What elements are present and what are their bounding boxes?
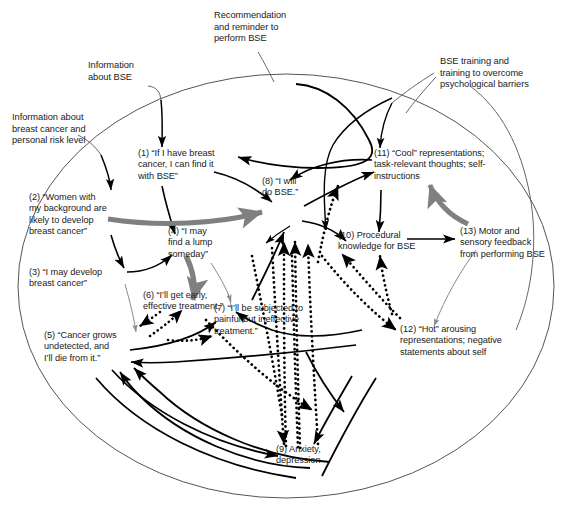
node-5-label: (5) “Cancer grows undetected, and I’ll d… (44, 330, 148, 364)
arrow-9-to-8-dotted-a (284, 242, 286, 446)
arrow-3-to-5-thingray (125, 284, 136, 332)
arrow-6-to-5-dotted (140, 312, 160, 326)
leader-recommendation (258, 52, 274, 82)
node-1-label: (1) “If I have breast cancer, I can find… (138, 148, 236, 182)
arrow-down-right-to-9 (306, 352, 344, 412)
node-12-label: (12) “Hot” arousing representations; neg… (400, 324, 528, 358)
node-10-label: (10) Procedural knowledge for BSE (338, 230, 444, 253)
arrow-recommendation-to-node1 (238, 84, 372, 168)
arrow-training-to-node11 (380, 103, 392, 148)
node-2-label: (2) “Women with my background are likely… (29, 192, 125, 238)
node-11-label: (11) “Cool” representations; task-releva… (374, 148, 510, 182)
diagram-canvas: Information about BSE Recommendation and… (0, 0, 568, 510)
external-label-recommendation-reminder: Recommendation and reminder to perform B… (214, 10, 320, 45)
arrow-11-to-10 (379, 190, 381, 232)
node-8-label: (8) “I will do BSE.” (262, 176, 324, 199)
leader-info-about-bse (148, 86, 161, 100)
external-label-bse-training: BSE training and training to overcome ps… (440, 56, 560, 91)
arrow-2-to-3 (111, 235, 124, 268)
external-label-information-about-bse: Information about BSE (88, 60, 178, 83)
arrow-10-to-12-dotted (322, 256, 396, 330)
arrow-5-to-6-dotted (150, 310, 182, 336)
arrow-7-to-9 (314, 376, 352, 444)
arrow-9-to-8-dotted-c (308, 244, 318, 444)
node-13-label: (13) Motor and sensory feedback from per… (460, 226, 564, 260)
arrow-4-to-8-thin (266, 226, 290, 243)
node-4-label: (4) “I may find a lump someday” (168, 226, 242, 260)
arrow-12-to-10-dotted-b (380, 256, 392, 314)
arrow-to-9-a (112, 370, 278, 456)
arrow-3-to-4 (127, 255, 172, 272)
arrow-12-to-5 (131, 345, 356, 363)
leader-bse-training-a (392, 73, 434, 103)
arrow-info-cancer-to-node2 (101, 155, 111, 190)
node-9-label: (9) Anxiety, depression (276, 444, 350, 467)
arrow-training-outer-right (470, 86, 534, 330)
arrow-2-to-8-gray (108, 212, 262, 223)
node-3-label: (3) “I may develop breast cancer” (29, 267, 125, 290)
arrow-11-to-12-thingray (434, 250, 476, 326)
arrow-info-bse-to-node1 (161, 100, 162, 147)
node-7-label: (7) “I’ll be subjected to painful but in… (214, 303, 332, 337)
arrow-13-to-11-gray (430, 185, 468, 224)
external-label-information-breast-cancer-risk: Information about breast cancer and pers… (12, 112, 124, 147)
